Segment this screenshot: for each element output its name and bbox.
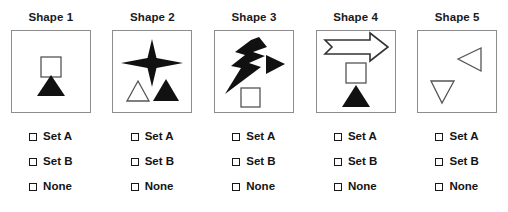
option-group-2: Set A Set B None [131, 124, 174, 199]
checkbox-none-2[interactable] [131, 183, 139, 191]
shape-panel-2 [112, 30, 192, 113]
checkbox-none-1[interactable] [29, 183, 37, 191]
option-row-set-b-4[interactable]: Set B [334, 149, 377, 174]
checkbox-set-a-3[interactable] [232, 133, 240, 141]
triangle-left-outline-icon [458, 48, 481, 71]
option-row-set-a-4[interactable]: Set A [334, 124, 377, 149]
triangle-right-filled-icon [266, 55, 285, 74]
option-row-none-2[interactable]: None [131, 174, 174, 199]
option-group-1: Set A Set B None [29, 124, 72, 199]
checkbox-none-3[interactable] [232, 183, 240, 191]
option-row-set-b-2[interactable]: Set B [131, 149, 174, 174]
option-group-5: Set A Set B None [435, 124, 478, 199]
shape-column-5: Shape 5 Set A Set B None [406, 0, 508, 212]
option-label-none-1: None [43, 180, 72, 193]
option-label-set-a-1: Set A [43, 130, 72, 143]
checkbox-set-b-3[interactable] [232, 158, 240, 166]
triangle-down-outline-icon [431, 81, 454, 103]
triangle-up-outline-icon [127, 81, 149, 101]
option-label-none-5: None [449, 180, 478, 193]
option-label-set-b-2: Set B [145, 155, 174, 168]
shape-column-2: Shape 2 Set A Set B [102, 0, 204, 212]
option-row-set-a-3[interactable]: Set A [232, 124, 275, 149]
triangle-up-filled-icon [153, 79, 179, 101]
option-label-set-b-3: Set B [246, 155, 275, 168]
shape-classification-worksheet: Shape 1 Set A Set B None [0, 0, 508, 212]
lightning-bolt-filled-icon [225, 37, 267, 94]
shape-column-4: Shape 4 Set A Set B [305, 0, 407, 212]
option-row-set-a-2[interactable]: Set A [131, 124, 174, 149]
square-outline-icon [241, 88, 260, 107]
option-label-set-a-5: Set A [449, 130, 478, 143]
option-row-none-1[interactable]: None [29, 174, 72, 199]
option-row-set-b-1[interactable]: Set B [29, 149, 72, 174]
option-label-set-a-4: Set A [348, 130, 377, 143]
shape-column-1: Shape 1 Set A Set B None [0, 0, 102, 212]
shape-panel-3 [214, 30, 294, 113]
option-label-set-b-1: Set B [43, 155, 72, 168]
option-row-set-b-3[interactable]: Set B [232, 149, 275, 174]
checkbox-set-a-1[interactable] [29, 133, 37, 141]
shape-column-title-5: Shape 5 [435, 10, 480, 24]
shape-column-title-4: Shape 4 [333, 10, 378, 24]
option-row-none-4[interactable]: None [334, 174, 377, 199]
shape-column-title-3: Shape 3 [232, 10, 277, 24]
option-label-set-b-5: Set B [449, 155, 478, 168]
four-pointed-star-filled-icon [121, 39, 183, 87]
checkbox-set-a-5[interactable] [435, 133, 443, 141]
checkbox-set-a-4[interactable] [334, 133, 342, 141]
square-outline-icon [41, 57, 61, 77]
checkbox-none-4[interactable] [334, 183, 342, 191]
square-outline-icon [346, 63, 366, 83]
option-label-none-3: None [246, 180, 275, 193]
checkbox-set-a-2[interactable] [131, 133, 139, 141]
shape-panel-4 [316, 30, 396, 113]
option-label-none-2: None [145, 180, 174, 193]
checkbox-set-b-1[interactable] [29, 158, 37, 166]
shape-columns: Shape 1 Set A Set B None [0, 0, 508, 212]
shape-panel-1 [11, 30, 91, 113]
option-label-set-a-3: Set A [246, 130, 275, 143]
shape-column-3: Shape 3 Set A Set B [203, 0, 305, 212]
checkbox-set-b-4[interactable] [334, 158, 342, 166]
triangle-up-filled-icon [342, 85, 370, 107]
arrow-right-outline-icon [325, 33, 388, 61]
option-row-set-a-1[interactable]: Set A [29, 124, 72, 149]
shape-panel-5 [417, 30, 497, 113]
checkbox-set-b-2[interactable] [131, 158, 139, 166]
checkbox-set-b-5[interactable] [435, 158, 443, 166]
option-row-set-b-5[interactable]: Set B [435, 149, 478, 174]
option-group-4: Set A Set B None [334, 124, 377, 199]
option-row-none-5[interactable]: None [435, 174, 478, 199]
option-group-3: Set A Set B None [232, 124, 275, 199]
option-label-set-a-2: Set A [145, 130, 174, 143]
triangle-up-filled-icon [37, 75, 65, 96]
shape-column-title-1: Shape 1 [28, 10, 73, 24]
shape-column-title-2: Shape 2 [130, 10, 175, 24]
option-row-set-a-5[interactable]: Set A [435, 124, 478, 149]
option-label-none-4: None [348, 180, 377, 193]
checkbox-none-5[interactable] [435, 183, 443, 191]
option-label-set-b-4: Set B [348, 155, 377, 168]
option-row-none-3[interactable]: None [232, 174, 275, 199]
